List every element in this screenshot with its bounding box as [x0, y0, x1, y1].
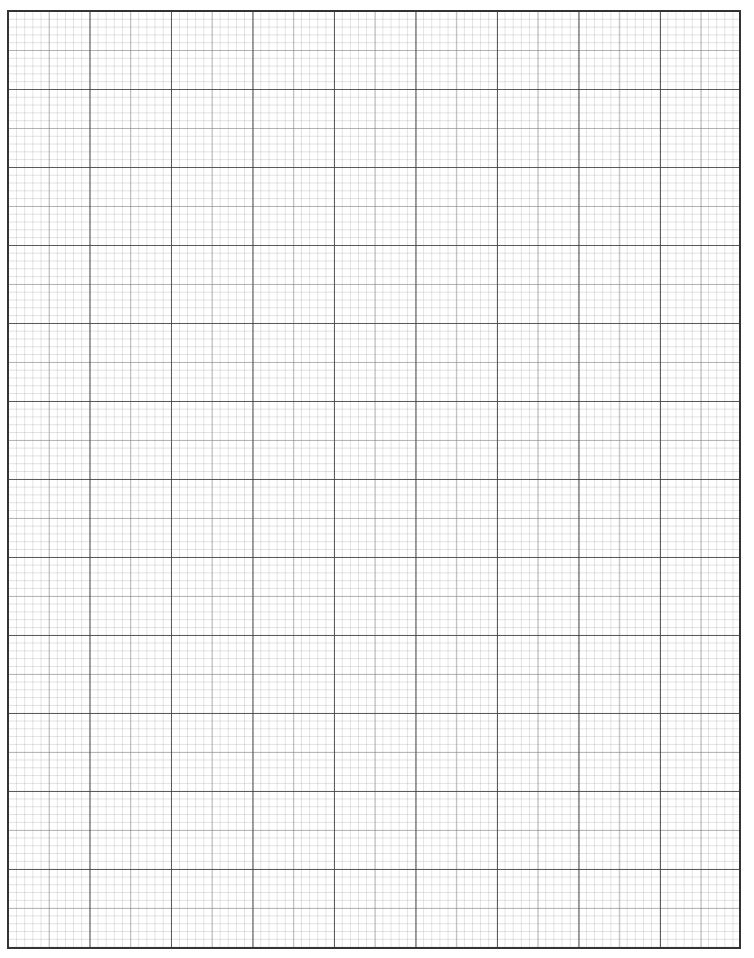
graph-paper-sheet [7, 10, 741, 949]
